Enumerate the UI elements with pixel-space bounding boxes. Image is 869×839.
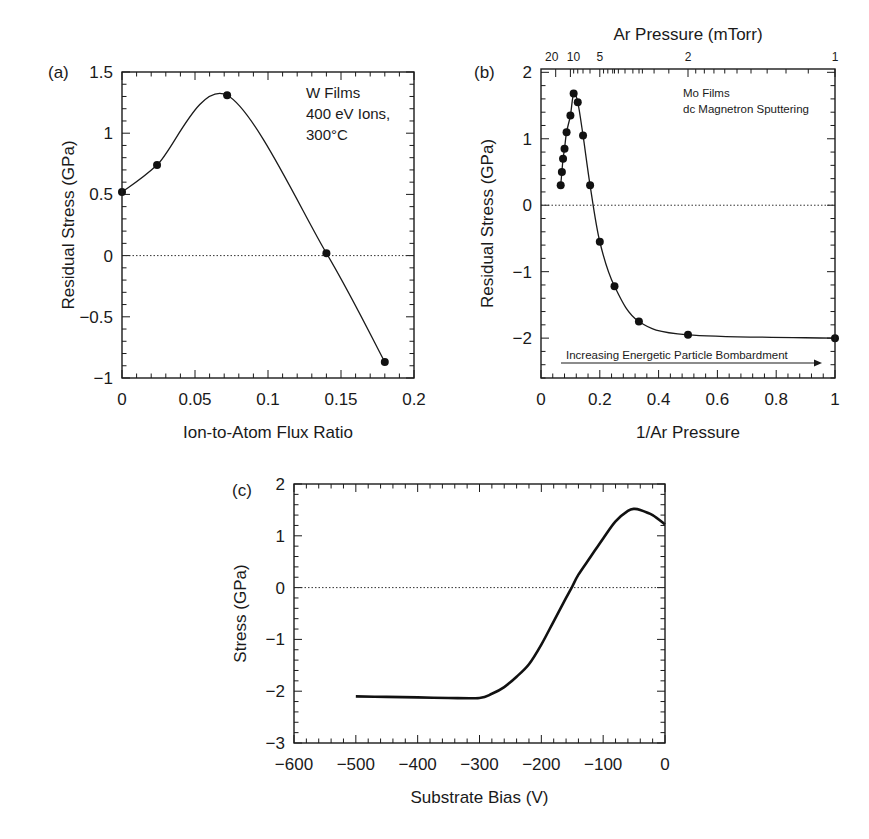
panel-a-y-tick-labels: −1−0.500.511.5 bbox=[79, 63, 113, 388]
panel-c-x-tick-label: −400 bbox=[399, 755, 437, 774]
panel-c-x-tick-label: −200 bbox=[522, 755, 560, 774]
panel-b-x-axis-label: 1/Ar Pressure bbox=[636, 423, 740, 442]
panel-b-data-point bbox=[557, 181, 565, 189]
figure: (a) −1−0.500.511.5 00.050.10.150.2 Ion-t… bbox=[0, 0, 869, 839]
figure-caption-cut-off bbox=[0, 818, 869, 839]
panel-b-top-axis-label: Ar Pressure (mTorr) bbox=[613, 25, 762, 44]
panel-a-y-tick-label: 0.5 bbox=[89, 185, 113, 204]
panel-b-x-tick-label: 1 bbox=[830, 390, 839, 409]
panel-c-x-tick-label: 0 bbox=[660, 755, 669, 774]
panel-a-x-tick-label: 0.2 bbox=[402, 390, 426, 409]
arrow-right-icon bbox=[814, 360, 822, 367]
panel-b-y-axis-label: Residual Stress (GPa) bbox=[478, 139, 497, 308]
panel-a-x-tick-label: 0.15 bbox=[324, 390, 357, 409]
panel-b-data-point bbox=[596, 238, 604, 246]
panel-c-ticks bbox=[294, 484, 665, 743]
panel-b-data-point bbox=[558, 168, 566, 176]
panel-b-markers bbox=[557, 90, 839, 343]
panel-c-x-tick-label: −500 bbox=[337, 755, 375, 774]
panel-a-label: (a) bbox=[48, 63, 69, 82]
panel-b-data-point bbox=[561, 145, 569, 153]
panel-a-y-tick-label: 0 bbox=[104, 247, 113, 266]
panel-b-y-tick-label: −1 bbox=[513, 263, 532, 282]
panel-a-annotation-line-2: 400 eV Ions, bbox=[306, 105, 390, 122]
panel-a: (a) −1−0.500.511.5 00.050.10.150.2 Ion-t… bbox=[48, 63, 426, 442]
panel-c-y-tick-label: 1 bbox=[276, 527, 285, 546]
panel-a-y-tick-label: −0.5 bbox=[79, 308, 113, 327]
panel-b-top-tick-label: 1 bbox=[832, 50, 839, 64]
panel-a-data-point bbox=[322, 249, 330, 257]
panel-b: (b) Ar Pressure (mTorr) 2010521 −2−1012 … bbox=[474, 25, 840, 442]
panel-c-x-tick-labels: −600−500−400−300−200−1000 bbox=[275, 755, 670, 774]
panel-c-x-tick-label: −300 bbox=[460, 755, 498, 774]
panel-c-x-tick-label: −600 bbox=[275, 755, 313, 774]
panel-c-label: (c) bbox=[232, 481, 252, 500]
panel-a-y-axis-label: Residual Stress (GPa) bbox=[59, 140, 78, 309]
panel-c-y-tick-labels: −3−2−1012 bbox=[266, 475, 285, 753]
panel-c: (c) −3−2−1012 −600−500−400−300−200−1000 … bbox=[231, 475, 670, 807]
panel-b-top-tick-label: 20 bbox=[545, 50, 559, 64]
panel-a-markers bbox=[118, 91, 389, 366]
panel-b-annotation-line-2: dc Magnetron Sputtering bbox=[683, 103, 809, 115]
panel-a-data-point bbox=[153, 161, 161, 169]
panel-b-data-point bbox=[586, 181, 594, 189]
panel-a-y-tick-label: 1 bbox=[104, 124, 113, 143]
panel-b-x-tick-label: 0.8 bbox=[764, 390, 788, 409]
panel-a-x-tick-label: 0.1 bbox=[256, 390, 280, 409]
panel-a-x-axis-label: Ion-to-Atom Flux Ratio bbox=[183, 423, 353, 442]
panel-a-x-tick-label: 0.05 bbox=[178, 390, 211, 409]
panel-c-x-axis-label: Substrate Bias (V) bbox=[411, 788, 549, 807]
panel-b-x-tick-label: 0.2 bbox=[588, 390, 612, 409]
panel-a-annotation-line-3: 300°C bbox=[306, 126, 348, 143]
panel-b-top-tick-label: 2 bbox=[685, 50, 692, 64]
panel-b-x-tick-label: 0.6 bbox=[706, 390, 730, 409]
panel-c-y-tick-label: −3 bbox=[266, 734, 285, 753]
panel-b-data-point bbox=[570, 90, 578, 98]
panel-b-x-tick-label: 0 bbox=[536, 390, 545, 409]
panel-b-data-point bbox=[579, 131, 587, 139]
panel-a-data-point bbox=[381, 358, 389, 366]
panel-b-data-point bbox=[611, 282, 619, 290]
panel-c-frame bbox=[294, 484, 665, 743]
panel-c-y-tick-label: −2 bbox=[266, 682, 285, 701]
panel-b-series-line bbox=[561, 93, 835, 338]
panel-b-x-tick-label: 0.4 bbox=[647, 390, 671, 409]
panel-b-data-point bbox=[684, 331, 692, 339]
panel-b-y-tick-label: 2 bbox=[523, 63, 532, 82]
panel-b-data-point bbox=[559, 155, 567, 163]
panel-b-top-tick-label: 5 bbox=[596, 50, 603, 64]
panel-a-x-tick-label: 0 bbox=[117, 390, 126, 409]
panel-b-y-tick-label: −2 bbox=[513, 329, 532, 348]
panel-a-annotation-line-1: W Films bbox=[306, 84, 360, 101]
panel-b-arrow-label: Increasing Energetic Particle Bombardmen… bbox=[566, 349, 789, 361]
panel-b-y-tick-label: 0 bbox=[523, 196, 532, 215]
panel-b-top-tick-label: 10 bbox=[567, 50, 581, 64]
panel-c-y-axis-label: Stress (GPa) bbox=[231, 564, 250, 662]
panel-c-x-tick-label: −100 bbox=[584, 755, 622, 774]
panel-b-data-point bbox=[574, 98, 582, 106]
panel-b-data-point bbox=[566, 112, 574, 120]
panel-c-y-tick-label: −1 bbox=[266, 630, 285, 649]
panel-c-series-line bbox=[356, 509, 665, 698]
panel-a-y-tick-label: −1 bbox=[94, 369, 113, 388]
panel-c-y-tick-label: 0 bbox=[276, 579, 285, 598]
panel-c-y-tick-label: 2 bbox=[276, 475, 285, 494]
panel-a-x-tick-labels: 00.050.10.150.2 bbox=[117, 390, 426, 409]
panel-b-data-point bbox=[635, 318, 643, 326]
panel-b-data-point bbox=[563, 128, 571, 136]
panel-a-data-point bbox=[223, 91, 231, 99]
panel-b-annotation-line-1: Mo Films bbox=[683, 87, 730, 99]
panel-b-top-tick-labels: 2010521 bbox=[545, 50, 839, 64]
panel-b-label: (b) bbox=[474, 63, 495, 82]
panel-b-y-tick-labels: −2−1012 bbox=[513, 63, 532, 348]
panel-b-x-tick-labels: 00.20.40.60.81 bbox=[536, 390, 839, 409]
panel-a-y-tick-label: 1.5 bbox=[89, 63, 113, 82]
panel-b-y-tick-label: 1 bbox=[523, 130, 532, 149]
